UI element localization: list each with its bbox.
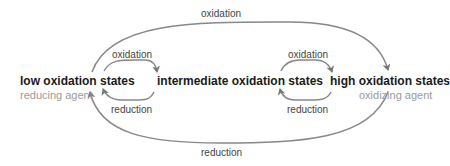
high-oxidation-states-node: high oxidation states [330, 75, 450, 87]
right-oxidation-label: oxidation [288, 50, 328, 60]
reducing-agent-label: reducing agent [20, 90, 93, 101]
right-oxidation-arrow [281, 60, 332, 72]
right-reduction-arrow [280, 89, 331, 100]
outer-oxidation-arrow [92, 22, 388, 72]
left-reduction-label: reduction [111, 105, 152, 115]
low-oxidation-states-node: low oxidation states [20, 75, 135, 87]
outer-oxidation-label: oxidation [201, 9, 241, 19]
right-reduction-label: reduction [287, 105, 328, 115]
left-oxidation-label: oxidation [112, 50, 152, 60]
outer-reduction-label: reduction [201, 148, 242, 158]
oxidizing-agent-label: oxidizing agent [359, 90, 432, 101]
left-reduction-arrow [103, 89, 154, 100]
intermediate-oxidation-states-node: intermediate oxidation states [157, 75, 323, 87]
left-oxidation-arrow [104, 60, 157, 72]
